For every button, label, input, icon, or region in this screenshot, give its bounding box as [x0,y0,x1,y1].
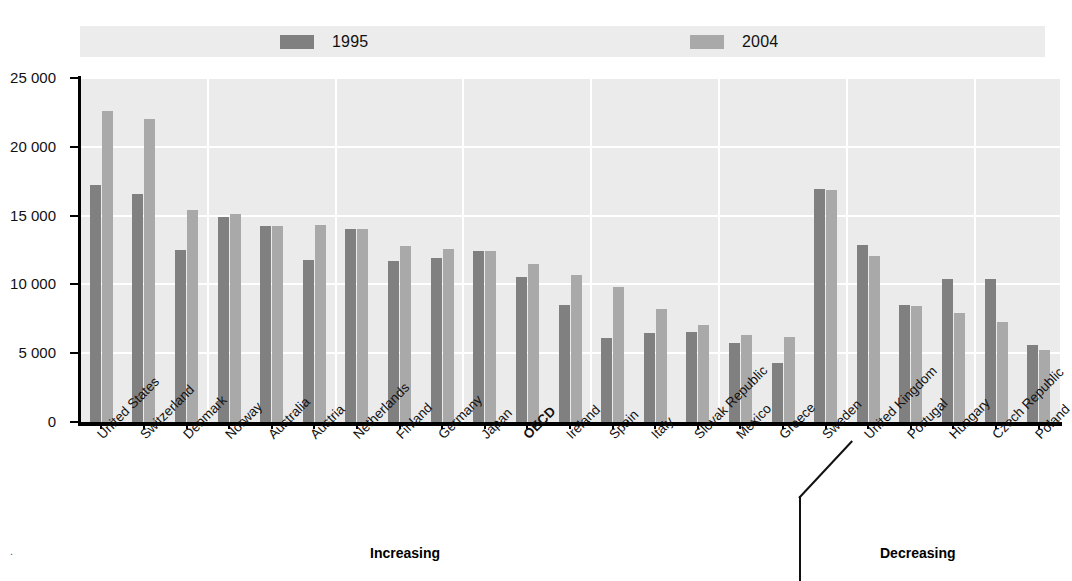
bar-2004 [613,287,624,422]
bar-2004 [911,306,922,422]
legend-label-2004: 2004 [742,33,778,51]
bar-2004 [826,190,837,422]
bar-2004 [102,111,113,422]
bar-group [260,78,283,422]
bar-1995 [857,245,868,423]
y-axis-tick [70,421,79,423]
y-axis-tick-label: 0 [48,414,56,429]
bar-group [388,78,411,422]
y-axis-tick-label: 25 000 [10,70,56,85]
page-corner-mark: . [10,545,13,557]
bar-group [132,78,155,422]
bar-1995 [559,305,570,422]
bar-1995 [601,338,612,422]
bar-2004 [656,309,667,422]
bar-2004 [698,325,709,422]
bar-2004 [485,251,496,422]
section-caption-increasing: Increasing [370,545,440,561]
y-axis-tick [70,146,79,148]
bar-1995 [814,189,825,422]
bar-group [899,78,922,422]
plot-area [80,78,1060,422]
bar-2004 [954,313,965,422]
bar-1995 [431,258,442,422]
bar-group [473,78,496,422]
bar-1995 [516,277,527,422]
y-axis-tick-label: 20 000 [10,139,56,154]
bar-2004 [315,225,326,422]
bar-2004 [997,322,1008,422]
bar-group [644,78,667,422]
legend-label-1995: 1995 [332,33,368,51]
legend-swatch-2004 [690,35,724,49]
bar-1995 [345,229,356,422]
bar-2004 [230,214,241,422]
bar-group [729,78,752,422]
bar-2004 [443,249,454,422]
bar-2004 [571,275,582,422]
bar-1995 [90,185,101,422]
section-divider-line [799,496,801,581]
bar-1995 [644,333,655,422]
bar-1995 [218,217,229,422]
bar-1995 [260,226,271,422]
bar-group [90,78,113,422]
bar-series-layer [80,78,1060,422]
section-caption-decreasing: Decreasing [880,545,955,561]
bar-group [175,78,198,422]
bar-group [772,78,795,422]
bar-group [814,78,837,422]
y-axis-tick-label: 5 000 [18,345,56,360]
y-axis-tick-label: 10 000 [10,276,56,291]
bar-group [431,78,454,422]
y-axis-tick [70,352,79,354]
chart-legend: 1995 2004 [80,26,1045,57]
bar-2004 [784,337,795,422]
legend-item-2004: 2004 [690,26,778,57]
bar-1995 [686,332,697,422]
bar-2004 [357,229,368,422]
bar-2004 [528,264,539,422]
bar-group [985,78,1008,422]
bar-1995 [772,363,783,422]
bar-group [303,78,326,422]
bar-group [857,78,880,422]
y-axis-tick [70,215,79,217]
y-axis-tick [70,283,79,285]
bar-2004 [869,256,880,422]
bar-group [1027,78,1050,422]
bar-group [218,78,241,422]
bar-group [942,78,965,422]
legend-swatch-1995 [280,35,314,49]
y-axis-tick [70,77,79,79]
bar-2004 [272,226,283,422]
legend-item-1995: 1995 [280,26,368,57]
bar-group [559,78,582,422]
bar-group [516,78,539,422]
bar-group [601,78,624,422]
section-divider-diagonal [798,440,853,498]
bar-group [345,78,368,422]
y-axis-line [78,76,81,424]
y-axis-tick-label: 15 000 [10,208,56,223]
bar-group [686,78,709,422]
